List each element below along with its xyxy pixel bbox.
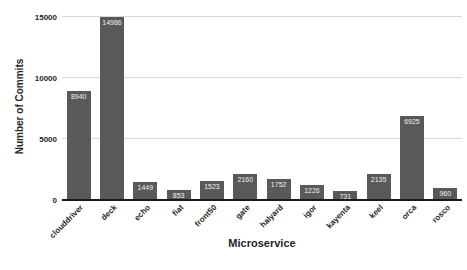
x-tick-label-keel: keel: [368, 203, 385, 220]
bar-slot-front50: 1523: [195, 17, 228, 200]
bar-deck: 14986: [100, 17, 124, 200]
bar-front50: 1523: [200, 181, 224, 200]
bars-group: 8940149861449853152321601752122673121356…: [62, 17, 462, 200]
bar-slot-halyard: 1752: [262, 17, 295, 200]
bar-echo: 1449: [133, 182, 157, 200]
bar-slot-clouddriver: 8940: [62, 17, 95, 200]
plot-area: 8940149861449853152321601752122673121356…: [62, 17, 462, 200]
x-tick-label-front50: front50: [193, 203, 219, 229]
bar-gate: 2160: [233, 174, 257, 200]
bar-value-label-orca: 6925: [404, 118, 420, 126]
bar-value-label-echo: 1449: [138, 184, 154, 192]
bar-slot-igor: 1226: [295, 17, 328, 200]
bar-slot-orca: 6925: [395, 17, 428, 200]
bar-clouddriver: 8940: [67, 91, 91, 200]
bar-value-label-keel: 2135: [371, 176, 387, 184]
x-tick-label-rosco: rosco: [430, 203, 452, 225]
bar-chart: Number of Commits 8940149861449853152321…: [0, 0, 467, 270]
bar-value-label-igor: 1226: [304, 187, 320, 195]
y-tick-label-15000: 15000: [7, 13, 57, 22]
bar-orca: 6925: [400, 116, 424, 200]
x-tick-label-clouddriver: clouddriver: [48, 203, 85, 240]
bar-value-label-halyard: 1752: [271, 181, 287, 189]
x-axis-line: [62, 199, 462, 201]
bar-slot-gate: 2160: [229, 17, 262, 200]
bar-slot-kayenta: 731: [329, 17, 362, 200]
y-tick-label-10000: 10000: [7, 74, 57, 83]
x-tick-label-echo: echo: [132, 203, 152, 223]
bar-keel: 2135: [367, 174, 391, 200]
x-tick-label-deck: deck: [99, 203, 118, 222]
x-tick-label-kayenta: kayenta: [324, 203, 351, 230]
x-tick-label-fiat: fiat: [170, 203, 185, 218]
x-axis-title: Microservice: [62, 237, 462, 249]
bar-halyard: 1752: [267, 179, 291, 200]
x-tick-label-gate: gate: [234, 203, 252, 221]
bar-value-label-gate: 2160: [238, 176, 254, 184]
bar-value-label-deck: 14986: [102, 19, 121, 27]
bar-value-label-clouddriver: 8940: [71, 93, 87, 101]
y-tick-label-5000: 5000: [7, 135, 57, 144]
y-tick-label-0: 0: [7, 196, 57, 205]
bar-value-label-front50: 1523: [204, 183, 220, 191]
bar-slot-keel: 2135: [362, 17, 395, 200]
bar-slot-deck: 14986: [95, 17, 128, 200]
x-tick-label-orca: orca: [400, 203, 418, 221]
bar-value-label-rosco: 960: [439, 190, 451, 198]
bar-igor: 1226: [300, 185, 324, 200]
bar-slot-echo: 1449: [129, 17, 162, 200]
bar-slot-fiat: 853: [162, 17, 195, 200]
x-tick-label-halyard: halyard: [259, 203, 285, 229]
x-tick-label-igor: igor: [301, 203, 318, 220]
bar-slot-rosco: 960: [429, 17, 462, 200]
